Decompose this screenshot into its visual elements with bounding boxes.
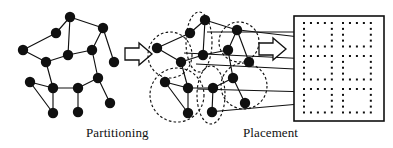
- cell-dot: [356, 78, 358, 80]
- cell-dot: [370, 78, 372, 80]
- cell-dot: [303, 88, 305, 90]
- cell-dot: [331, 40, 333, 42]
- cell-dot: [303, 45, 305, 47]
- cell-dot: [317, 78, 319, 80]
- cell-dot: [303, 34, 305, 36]
- cell-dot: [370, 22, 372, 24]
- cell-dot: [349, 55, 351, 57]
- cell-dot: [363, 111, 365, 113]
- cell-dot: [303, 78, 305, 80]
- cell-dot: [342, 61, 344, 63]
- cell-dot: [317, 45, 319, 47]
- cell-dot: [370, 111, 372, 113]
- cell-dot: [331, 34, 333, 36]
- cell-dot: [324, 111, 326, 113]
- cell-dot: [349, 45, 351, 47]
- cell-dot: [370, 34, 372, 36]
- cell-dot: [331, 94, 333, 96]
- cell-dot: [370, 40, 372, 42]
- cell-dot: [331, 78, 333, 80]
- cell-dot: [310, 111, 312, 113]
- cell-dot: [331, 88, 333, 90]
- cell-dot: [342, 106, 344, 108]
- cell-dot: [317, 88, 319, 90]
- cell-dot: [310, 22, 312, 24]
- cell-dot: [331, 22, 333, 24]
- cell-dot: [370, 61, 372, 63]
- cell-dot: [363, 78, 365, 80]
- cell-dot: [356, 55, 358, 57]
- cell-dot: [342, 100, 344, 102]
- cell-dot: [310, 88, 312, 90]
- cell-dot: [331, 55, 333, 57]
- cell-dot: [342, 55, 344, 57]
- cell-dot: [317, 22, 319, 24]
- cell-dot: [324, 88, 326, 90]
- cell-dot: [310, 78, 312, 80]
- cell-dot: [303, 73, 305, 75]
- cell-dot: [331, 100, 333, 102]
- cell-dot: [370, 88, 372, 90]
- cell-dot: [342, 40, 344, 42]
- cell-dot: [356, 111, 358, 113]
- cell-dot: [342, 73, 344, 75]
- cell-dot: [331, 73, 333, 75]
- cell-dot: [317, 111, 319, 113]
- cell-dot: [370, 106, 372, 108]
- cell-dot: [303, 100, 305, 102]
- cell-dot: [363, 88, 365, 90]
- cell-dot: [349, 22, 351, 24]
- cell-dot: [331, 45, 333, 47]
- cell-dot: [303, 28, 305, 30]
- cell-dot: [331, 67, 333, 69]
- cell-dot: [342, 94, 344, 96]
- cell-dot: [317, 55, 319, 57]
- cell-dot: [370, 28, 372, 30]
- cell-dot: [342, 28, 344, 30]
- cell-dot: [324, 78, 326, 80]
- cell-dot: [349, 88, 351, 90]
- cell-dot: [303, 94, 305, 96]
- cell-dot: [303, 111, 305, 113]
- cell-dot: [310, 45, 312, 47]
- cell-dot: [303, 22, 305, 24]
- cell-dot: [370, 45, 372, 47]
- cell-dot: [303, 61, 305, 63]
- cell-dot: [370, 94, 372, 96]
- cell-dot: [349, 78, 351, 80]
- cell-dot: [331, 111, 333, 113]
- cell-dot: [363, 55, 365, 57]
- cell-dot: [324, 22, 326, 24]
- cell-dot: [331, 106, 333, 108]
- label-partitioning: Partitioning: [86, 125, 149, 141]
- cell-dot: [342, 111, 344, 113]
- cell-dot: [356, 45, 358, 47]
- cell-dot: [324, 55, 326, 57]
- cell-dot: [370, 100, 372, 102]
- cell-dot: [370, 73, 372, 75]
- cell-dot: [310, 55, 312, 57]
- cell-dot: [303, 55, 305, 57]
- cell-dot: [363, 45, 365, 47]
- cell-dot: [342, 45, 344, 47]
- cell-dot: [342, 88, 344, 90]
- chip-placement-panel: [294, 16, 384, 121]
- cell-dot: [324, 45, 326, 47]
- cell-dot: [370, 67, 372, 69]
- cell-dot: [342, 78, 344, 80]
- cell-dot: [303, 106, 305, 108]
- cell-dot: [342, 67, 344, 69]
- cell-dot: [356, 22, 358, 24]
- label-placement: Placement: [243, 125, 298, 141]
- vlsi-flow-figure: [0, 0, 393, 148]
- cell-dot: [331, 61, 333, 63]
- cell-dot: [303, 67, 305, 69]
- cell-dot: [342, 22, 344, 24]
- cell-dot: [363, 22, 365, 24]
- cell-dot: [331, 28, 333, 30]
- cell-dot: [342, 34, 344, 36]
- cell-dot: [349, 111, 351, 113]
- cell-dot: [303, 40, 305, 42]
- cell-dot: [370, 55, 372, 57]
- cell-dot: [356, 88, 358, 90]
